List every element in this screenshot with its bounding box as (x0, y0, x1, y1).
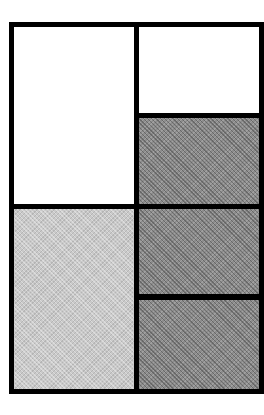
cell-left-bottom (14, 209, 134, 389)
grid-frame (9, 22, 264, 394)
cell-right-1 (139, 27, 259, 113)
cell-left-top (14, 27, 134, 204)
cell-right-3 (139, 209, 259, 294)
cell-right-4 (139, 300, 259, 389)
cell-right-2 (139, 118, 259, 204)
